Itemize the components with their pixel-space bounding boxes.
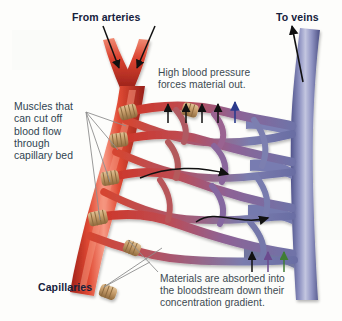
absorption-arrows <box>252 252 284 272</box>
artery-inflow-arrow-left <box>103 26 119 68</box>
label-capillaries: Capillaries <box>38 281 92 293</box>
blood-flow-arrow-lower <box>196 216 268 222</box>
label-materials-absorbed: Materials are absorbed into the bloodstr… <box>160 273 285 309</box>
artery-inflow-arrows <box>103 26 155 68</box>
artery-inflow-arrow-right <box>137 26 155 68</box>
label-to-veins: To veins <box>276 11 319 23</box>
filtration-arrows <box>168 102 235 123</box>
label-from-arteries: From arteries <box>72 11 140 23</box>
vein-outflow-arrow <box>292 26 303 82</box>
blood-flow-arrow-upper <box>140 168 228 178</box>
capillary-bed-figure: From arteries To veins Capillaries High … <box>0 0 342 321</box>
label-muscles-cut-off-flow: Muscles that can cut off blood flow thro… <box>14 101 73 162</box>
label-high-blood-pressure: High blood pressure forces material out. <box>158 67 250 91</box>
muscles-leader-lines <box>86 112 126 220</box>
absorption-leader-line <box>128 240 158 272</box>
